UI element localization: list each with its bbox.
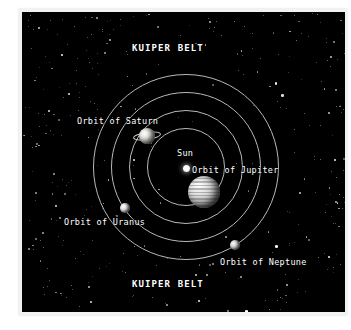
- saturn-body: [139, 128, 155, 144]
- label-kuiper-belt-bottom: KUIPER BELT: [132, 279, 204, 289]
- diagram-page: KUIPER BELT Orbit of Saturn Sun Orbit of…: [0, 0, 351, 330]
- label-kuiper-belt-top: KUIPER BELT: [132, 43, 204, 53]
- label-orbit-of-neptune: Orbit of Neptune: [220, 257, 307, 267]
- space-panel: KUIPER BELT Orbit of Saturn Sun Orbit of…: [22, 12, 345, 312]
- label-orbit-of-jupiter: Orbit of Jupiter: [192, 165, 279, 175]
- label-orbit-of-saturn: Orbit of Saturn: [77, 116, 158, 126]
- label-sun: Sun: [177, 148, 193, 158]
- label-orbit-of-uranus: Orbit of Uranus: [64, 217, 145, 227]
- diagram-labels: KUIPER BELT Orbit of Saturn Sun Orbit of…: [22, 12, 345, 312]
